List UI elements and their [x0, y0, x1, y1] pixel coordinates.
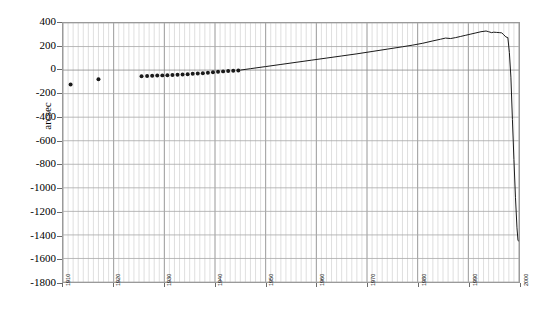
data-point: [231, 69, 235, 73]
x-tick-mark: [469, 283, 470, 287]
x-tick-mark: [164, 283, 165, 287]
x-tick-label: 2000: [523, 274, 529, 286]
x-tick-label: 1940: [217, 274, 223, 286]
x-tick-mark: [418, 283, 419, 287]
x-tick-mark: [113, 283, 114, 287]
x-tick-mark: [266, 283, 267, 287]
x-tick-label: 1990: [472, 274, 478, 286]
data-point: [216, 70, 220, 74]
x-tick-label: 1930: [166, 274, 172, 286]
data-point: [191, 72, 195, 76]
y-tick-label: -1200: [4, 206, 56, 216]
data-point: [186, 72, 190, 76]
data-point: [145, 74, 149, 78]
data-point: [206, 71, 210, 75]
y-axis-tick-group: 4002000-200-400-600-800-1000-1200-1400-1…: [0, 0, 62, 314]
x-tick-mark: [316, 283, 317, 287]
data-point: [69, 82, 73, 86]
data-point: [170, 73, 174, 77]
data-point: [221, 69, 225, 73]
plot-area: [62, 22, 520, 283]
data-point: [165, 73, 169, 77]
x-tick-label: 1920: [115, 274, 121, 286]
x-tick-mark: [62, 283, 63, 287]
x-tick-mark: [367, 283, 368, 287]
data-point: [236, 68, 240, 72]
y-tick-label: -800: [4, 158, 56, 168]
x-tick-label: 1970: [370, 274, 376, 286]
x-tick-label: 1960: [319, 274, 325, 286]
data-point: [96, 77, 100, 81]
data-point: [160, 73, 164, 77]
data-point: [226, 69, 230, 73]
x-axis-tick-group: 1910192019301940195019601970198019902000: [0, 283, 542, 314]
y-tick-label: -1600: [4, 253, 56, 263]
data-point: [211, 70, 215, 74]
x-tick-mark: [215, 283, 216, 287]
data-point: [140, 74, 144, 78]
data-layer: [63, 23, 519, 282]
x-tick-label: 1950: [268, 274, 274, 286]
data-point: [155, 74, 159, 78]
y-tick-label: -1000: [4, 182, 56, 192]
data-point: [150, 74, 154, 78]
data-point: [181, 72, 185, 76]
y-tick-label: -200: [4, 87, 56, 97]
y-tick-label: 0: [4, 63, 56, 73]
x-tick-label: 1910: [65, 274, 71, 286]
x-tick-mark: [520, 283, 521, 287]
data-point: [201, 71, 205, 75]
y-tick-label: -400: [4, 111, 56, 121]
series-trend-curve: [240, 31, 518, 241]
y-tick-label: -1400: [4, 230, 56, 240]
chart-container: arcsec 4002000-200-400-600-800-1000-1200…: [0, 0, 542, 314]
y-tick-label: 400: [4, 16, 56, 26]
y-tick-label: 200: [4, 40, 56, 50]
data-point: [196, 72, 200, 76]
x-tick-label: 1980: [421, 274, 427, 286]
data-point: [176, 73, 180, 77]
y-tick-label: -600: [4, 135, 56, 145]
